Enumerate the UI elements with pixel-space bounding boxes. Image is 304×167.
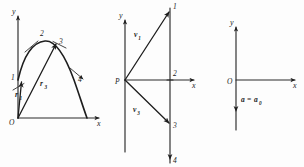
trajectory-point-3-label: 3 [58, 37, 63, 46]
label-v1: v 1 [134, 30, 141, 41]
hodograph-point-4-label: 4 [173, 156, 177, 165]
panel-hodograph: y x P 1 2 3 4 v 1 v 3 [104, 0, 203, 167]
velocity-vector-v1 [125, 12, 169, 80]
hodograph-y-label: y [118, 11, 123, 20]
hodograph-point-3-label: 3 [172, 121, 177, 130]
panel-trajectory: y x O 1 2 3 4 r 1 r 3 [0, 0, 104, 167]
acceleration-annotation: a = a 0 [241, 95, 262, 106]
trajectory-y-label: y [11, 7, 16, 16]
annotation-a-rhs-subscript: 0 [259, 100, 262, 106]
label-r3-subscript: 3 [43, 84, 47, 90]
label-r3-base: r [40, 79, 43, 88]
annotation-a-lhs: a [241, 95, 245, 104]
accel-origin-label: O [227, 77, 233, 86]
trajectory-origin-label: O [9, 118, 15, 127]
label-v1-subscript: 1 [138, 35, 141, 41]
label-r1: r 1 [15, 90, 22, 101]
label-r1-subscript: 1 [19, 95, 22, 101]
trajectory-point-4-label: 4 [78, 75, 82, 84]
label-v3: v 3 [133, 105, 140, 116]
annotation-a-rhs: a [254, 95, 258, 104]
tangent-at-point-2 [25, 41, 38, 52]
trajectory-point-2-label: 2 [40, 29, 44, 38]
trajectory-point-1-label: 1 [11, 73, 15, 82]
panel-acceleration: y x O a = a 0 [203, 0, 304, 167]
label-r3: r 3 [40, 79, 47, 90]
trajectory-curve [18, 41, 87, 118]
hodograph-origin-label: P [114, 77, 120, 86]
label-v3-subscript: 3 [136, 110, 140, 116]
hodograph-point-2-label: 2 [173, 69, 177, 78]
label-r1-base: r [15, 90, 18, 99]
annotation-equals: = [247, 95, 251, 104]
accel-y-label: y [229, 18, 234, 27]
radius-vector-r3 [18, 44, 56, 118]
physics-figure-three-panels: y x O 1 2 3 4 r 1 r 3 [0, 0, 304, 167]
trajectory-x-label: x [96, 119, 101, 128]
hodograph-point-1-label: 1 [173, 2, 177, 11]
velocity-vector-v3 [125, 80, 169, 123]
hodograph-x-label: x [191, 81, 196, 90]
accel-x-label: x [292, 81, 297, 90]
